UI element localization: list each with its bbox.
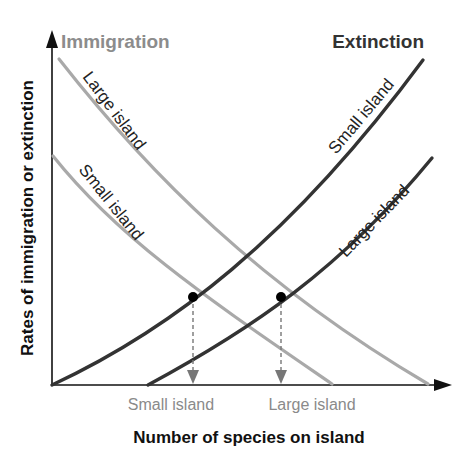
x-axis-title: Number of species on island [133,428,364,447]
y-axis-arrow-icon [46,30,58,48]
x-tick-large-island: Large island [268,396,355,413]
extinction-large-label: Large island [335,181,413,261]
drop-arrow-icon [275,370,287,384]
immigration-large-label: Large island [79,68,150,153]
equilibrium-dot [276,292,286,302]
extinction-heading: Extinction [332,31,424,52]
extinction-small-label: Small island [325,75,398,157]
equilibrium-small-island [187,292,199,384]
immigration-heading: Immigration [61,31,170,52]
island-biogeography-diagram: Immigration Extinction Large island Smal… [0,0,466,452]
immigration-small-label: Small island [75,161,147,244]
equilibrium-dot [188,292,198,302]
x-tick-small-island: Small island [128,396,214,413]
y-axis-title: Rates of immigration or extinction [18,80,37,356]
drop-arrow-icon [187,370,199,384]
x-axis-arrow-icon [434,379,452,391]
